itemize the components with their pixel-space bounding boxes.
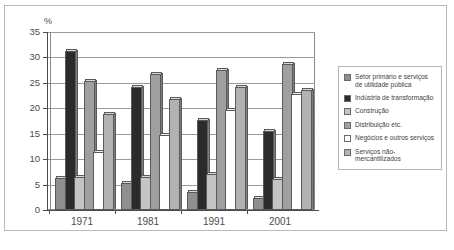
y-axis-tick-label: 20 <box>14 103 40 113</box>
legend-swatch <box>344 95 351 102</box>
bar-group <box>253 32 315 210</box>
legend-item[interactable]: Indústria de transformação <box>344 94 436 102</box>
bar-top-face <box>198 118 209 121</box>
legend-swatch <box>344 74 351 81</box>
legend-item-label: Serviços não-mercantilizados <box>355 148 436 163</box>
y-axis-tick-label: 10 <box>14 154 40 164</box>
bar-top-face <box>236 85 247 88</box>
x-axis-category-label: 1971 <box>57 216 107 227</box>
bar <box>235 87 246 210</box>
bar-top-face <box>151 72 162 75</box>
y-axis-tick-label: 0 <box>14 205 40 215</box>
bar-group <box>121 32 183 210</box>
bar-face <box>235 87 246 210</box>
x-axis-tick <box>247 210 248 214</box>
bar-side-face <box>312 89 314 209</box>
legend-item-label: Indústria de transformação <box>355 94 433 102</box>
bar <box>169 99 180 210</box>
y-axis-unit-label: % <box>44 16 52 26</box>
legend-item-label: Construção <box>355 107 389 115</box>
legend-item[interactable]: Serviços não-mercantilizados <box>344 148 436 163</box>
x-axis-tick <box>115 210 116 214</box>
legend-item-label: Negócios e outros serviços <box>355 134 434 142</box>
legend-swatch <box>344 122 351 129</box>
bar-top-face <box>264 129 275 132</box>
bar-side-face <box>246 86 248 209</box>
bar-top-face <box>104 112 115 115</box>
x-axis-category-label: 2001 <box>255 216 305 227</box>
y-axis-tick-label: 25 <box>14 78 40 88</box>
bar-group <box>187 32 249 210</box>
chart-figure: % 1971198119912001 05101520253035 Setor … <box>0 0 454 250</box>
y-axis-tick-label: 30 <box>14 52 40 62</box>
legend-item[interactable]: Setor primário e serviços de utilidade p… <box>344 73 436 88</box>
bar-top-face <box>283 62 294 65</box>
chart-legend: Setor primário e serviços de utilidade p… <box>338 66 442 170</box>
bar-face <box>169 99 180 210</box>
x-axis-tick <box>49 210 50 214</box>
bar <box>301 90 312 210</box>
legend-item[interactable]: Distribuição etc. <box>344 121 436 129</box>
bar <box>103 114 114 210</box>
bar-top-face <box>85 79 96 82</box>
bar-top-face <box>302 88 313 91</box>
bar-top-face <box>170 97 181 100</box>
x-axis-category-label: 1981 <box>123 216 173 227</box>
x-axis-category-label: 1991 <box>189 216 239 227</box>
legend-item[interactable]: Negócios e outros serviços <box>344 134 436 142</box>
bars-layer <box>47 32 315 210</box>
bar-top-face <box>132 85 143 88</box>
bar-top-face <box>217 68 228 71</box>
legend-swatch <box>344 135 351 142</box>
legend-swatch <box>344 108 351 115</box>
plot-area: 1971198119912001 <box>47 32 315 210</box>
bar-face <box>301 90 312 210</box>
bar-group <box>55 32 117 210</box>
y-axis-tick-label: 35 <box>14 27 40 37</box>
bar-face <box>103 114 114 210</box>
legend-item[interactable]: Construção <box>344 107 436 115</box>
x-axis-tick <box>181 210 182 214</box>
legend-swatch <box>344 149 351 156</box>
y-axis-tick <box>43 210 47 211</box>
y-axis-tick-label: 5 <box>14 180 40 190</box>
bar-side-face <box>180 98 182 209</box>
legend-item-label: Setor primário e serviços de utilidade p… <box>355 73 436 88</box>
bar-top-face <box>66 49 77 52</box>
bar-side-face <box>114 113 116 209</box>
x-axis-line <box>47 210 319 211</box>
legend-item-label: Distribuição etc. <box>355 121 402 129</box>
y-axis-tick-label: 15 <box>14 129 40 139</box>
